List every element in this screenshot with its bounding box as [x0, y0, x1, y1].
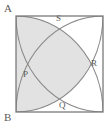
point-label-p: P [23, 70, 28, 79]
point-label-s: S [56, 14, 61, 23]
geometry-figure: A B P Q R S [0, 0, 112, 129]
vertex-label-b: B [4, 112, 11, 123]
point-label-r: R [91, 59, 97, 68]
vertex-label-a: A [4, 3, 12, 14]
point-label-q: Q [59, 101, 66, 110]
